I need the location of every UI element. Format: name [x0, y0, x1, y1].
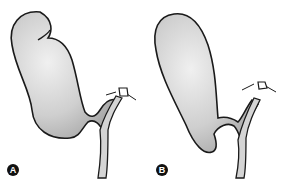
panel-a: A	[0, 0, 146, 189]
panel-a-label: A	[7, 164, 19, 176]
gallbladder-b-illustration	[146, 0, 292, 189]
panel-b-label: B	[156, 164, 168, 176]
panel-b: B	[146, 0, 292, 189]
gallbladder-a-illustration	[0, 0, 146, 189]
